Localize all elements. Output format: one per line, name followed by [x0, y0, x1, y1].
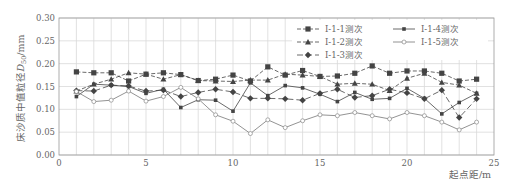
legend-label: Ⅰ-1-2测次	[325, 37, 363, 47]
marker-diamond-icon	[404, 90, 410, 96]
marker-square-icon	[475, 92, 479, 96]
marker-diamond-icon	[195, 89, 201, 95]
marker-circle-icon	[196, 97, 200, 101]
marker-square-icon	[162, 87, 166, 91]
marker-circle-icon	[422, 114, 426, 118]
marker-square-icon	[214, 98, 218, 102]
marker-circle-icon	[161, 95, 165, 99]
marker-diamond-icon	[91, 88, 97, 94]
data-series	[73, 63, 480, 135]
marker-circle-icon	[335, 114, 339, 118]
marker-circle-icon	[144, 99, 148, 103]
marker-circle-icon	[231, 119, 235, 123]
marker-diamond-icon	[386, 86, 392, 92]
marker-square-icon	[249, 81, 253, 85]
legend-label: Ⅰ-1-3测次	[325, 50, 363, 60]
y-axis-label-unit: /mm	[15, 34, 26, 55]
marker-square-icon	[353, 91, 357, 95]
marker-square-icon	[144, 92, 148, 96]
y-tick-label: 0.30	[36, 13, 55, 23]
marker-triangle-icon	[404, 75, 410, 80]
marker-circle-icon	[127, 89, 131, 93]
marker-square-icon	[283, 84, 287, 88]
marker-square-icon	[318, 92, 322, 96]
y-axis-label: 床沙质中值粒径D50/mm	[15, 34, 28, 141]
marker-square-icon	[301, 86, 305, 90]
y-axis-label-subscript: 50	[20, 56, 28, 64]
marker-circle-icon	[248, 132, 252, 136]
line-chart: 0.000.050.100.150.200.250.30 0510152025 …	[0, 0, 516, 184]
marker-square-icon	[161, 70, 166, 75]
marker-square-icon	[305, 26, 310, 31]
marker-square-icon	[457, 101, 461, 105]
marker-square-icon	[266, 94, 270, 98]
marker-diamond-icon	[439, 87, 445, 93]
legend-label: Ⅰ-1-5测次	[421, 37, 459, 47]
marker-square-icon	[402, 27, 406, 31]
marker-square-icon	[405, 87, 409, 91]
marker-diamond-icon	[212, 86, 218, 92]
marker-square-icon	[352, 71, 357, 76]
marker-circle-icon	[457, 128, 461, 132]
marker-circle-icon	[301, 119, 305, 123]
marker-square-icon	[265, 64, 270, 69]
marker-triangle-icon	[108, 76, 114, 81]
marker-square-icon	[91, 70, 96, 75]
x-axis-label: 起点距/m	[449, 169, 491, 180]
x-tick-label: 25	[489, 158, 500, 168]
series-5	[74, 85, 478, 135]
marker-circle-icon	[440, 120, 444, 124]
marker-square-icon	[370, 63, 375, 68]
marker-circle-icon	[283, 126, 287, 130]
marker-triangle-icon	[352, 80, 358, 85]
y-tick-label: 0.10	[36, 104, 55, 114]
marker-square-icon	[75, 95, 79, 99]
marker-circle-icon	[214, 113, 218, 117]
marker-circle-icon	[318, 113, 322, 117]
marker-diamond-icon	[299, 97, 305, 103]
y-tick-labels: 0.000.050.100.150.200.250.30	[36, 13, 55, 160]
marker-circle-icon	[370, 114, 374, 118]
marker-diamond-icon	[282, 96, 288, 102]
legend: Ⅰ-1-1测次Ⅰ-1-2测次Ⅰ-1-3测次Ⅰ-1-4测次Ⅰ-1-5测次	[292, 20, 488, 60]
marker-triangle-icon	[439, 79, 445, 84]
marker-circle-icon	[402, 40, 406, 44]
marker-square-icon	[404, 68, 409, 73]
marker-circle-icon	[109, 98, 113, 102]
marker-square-icon	[109, 70, 114, 75]
marker-square-icon	[179, 106, 183, 110]
marker-circle-icon	[92, 100, 96, 104]
marker-diamond-icon	[334, 86, 340, 92]
x-tick-label: 20	[402, 158, 413, 168]
marker-square-icon	[231, 109, 235, 113]
marker-square-icon	[387, 71, 392, 76]
x-tick-label: 0	[56, 158, 61, 168]
marker-circle-icon	[74, 90, 78, 94]
marker-square-icon	[388, 97, 392, 101]
marker-square-icon	[92, 82, 96, 86]
x-tick-label: 10	[228, 158, 239, 168]
marker-circle-icon	[266, 118, 270, 122]
marker-circle-icon	[353, 111, 357, 115]
marker-circle-icon	[405, 111, 409, 115]
x-tick-label: 15	[315, 158, 326, 168]
marker-square-icon	[423, 97, 427, 101]
y-axis-label-main: 床沙质中值粒径	[15, 72, 26, 142]
marker-square-icon	[335, 73, 340, 78]
x-tick-labels: 0510152025	[56, 158, 499, 168]
marker-circle-icon	[475, 120, 479, 124]
marker-square-icon	[127, 85, 131, 89]
marker-diamond-icon	[178, 93, 184, 99]
marker-diamond-icon	[247, 95, 253, 101]
y-tick-label: 0.15	[36, 82, 55, 92]
marker-triangle-icon	[126, 70, 132, 75]
marker-square-icon	[336, 100, 340, 104]
marker-circle-icon	[179, 85, 183, 89]
marker-square-icon	[439, 71, 444, 76]
y-tick-label: 0.20	[36, 59, 55, 69]
marker-square-icon	[126, 78, 131, 83]
y-tick-label: 0.00	[36, 150, 55, 160]
marker-square-icon	[370, 97, 374, 101]
legend-label: Ⅰ-1-1测次	[325, 24, 363, 34]
series-2	[73, 70, 479, 96]
